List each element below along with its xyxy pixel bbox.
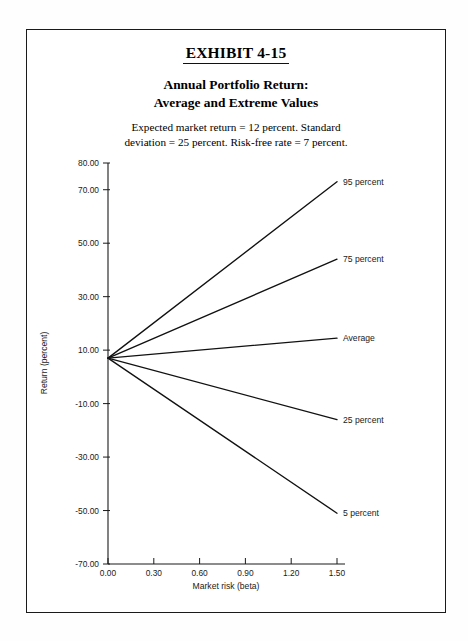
exhibit-page: EXHIBIT 4-15 Annual Portfolio Return: Av… <box>0 0 468 641</box>
exhibit-subtitle-line-2: deviation = 25 percent. Risk-free rate =… <box>27 135 445 150</box>
page-title-line-2: Average and Extreme Values <box>27 94 445 112</box>
page-title: Annual Portfolio Return: Average and Ext… <box>27 76 445 111</box>
exhibit-frame: EXHIBIT 4-15 Annual Portfolio Return: Av… <box>26 29 446 613</box>
exhibit-number-wrap: EXHIBIT 4-15 <box>27 44 445 64</box>
page-title-line-1: Annual Portfolio Return: <box>27 76 445 94</box>
exhibit-number: EXHIBIT 4-15 <box>183 44 290 64</box>
exhibit-subtitle: Expected market return = 12 percent. Sta… <box>27 120 445 149</box>
exhibit-heading: EXHIBIT 4-15 Annual Portfolio Return: Av… <box>27 44 445 149</box>
exhibit-subtitle-line-1: Expected market return = 12 percent. Sta… <box>27 120 445 135</box>
